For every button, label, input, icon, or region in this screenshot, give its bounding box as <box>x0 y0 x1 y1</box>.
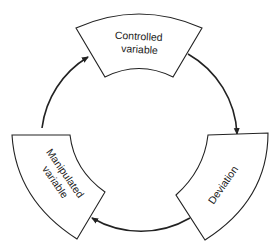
cycle-diagram: Controlled variable Deviation Manipulate… <box>0 0 277 250</box>
controlled-label-line2: variable <box>121 42 159 56</box>
node-manipulated-variable: Manipulated variable <box>12 135 105 239</box>
edge-controlled-to-deviation <box>188 54 237 134</box>
edge-deviation-to-manipulated <box>92 218 190 231</box>
diagram-canvas: Controlled variable Deviation Manipulate… <box>0 0 277 250</box>
node-controlled-variable: Controlled variable <box>76 14 202 77</box>
node-deviation: Deviation <box>176 133 268 240</box>
edge-manipulated-to-controlled <box>42 57 88 128</box>
controlled-label-line1: Controlled <box>115 29 164 43</box>
